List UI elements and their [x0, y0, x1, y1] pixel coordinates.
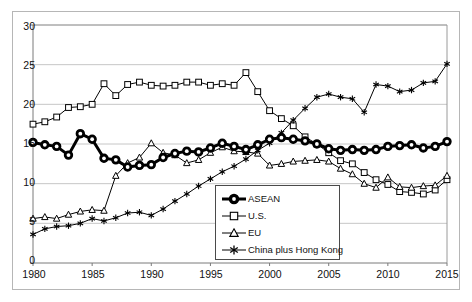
x-tick-label: 2000: [250, 268, 290, 280]
legend-label: EU: [248, 227, 261, 238]
x-tick-label: 2005: [309, 268, 349, 280]
y-tick-label: 5: [13, 215, 35, 227]
x-tick-label: 2015: [427, 268, 467, 280]
legend-marker-china-icon: [221, 243, 247, 257]
x-tick-label: 1995: [191, 268, 231, 280]
y-tick-label: 10: [13, 176, 35, 188]
chart-figure: 30 25 20 15 10 5 0 1980 1985 1990 1995 2…: [0, 0, 472, 302]
y-tick-label: 30: [13, 20, 35, 32]
x-tick-label: 1980: [14, 268, 54, 280]
legend-item-asean: ASEAN: [221, 190, 335, 207]
legend-marker-us-icon: [221, 209, 247, 223]
legend-marker-asean-icon: [221, 192, 247, 206]
legend-item-china-hongkong: China plus Hong Kong: [221, 241, 335, 258]
x-tick-label: 1990: [132, 268, 172, 280]
legend-label: U.S.: [248, 210, 266, 221]
legend-label: China plus Hong Kong: [248, 244, 343, 255]
legend-item-eu: EU: [221, 224, 335, 241]
y-tick-label: 0: [13, 254, 35, 266]
y-tick-label: 25: [13, 59, 35, 71]
legend-marker-eu-icon: [221, 226, 247, 240]
legend-item-us: U.S.: [221, 207, 335, 224]
y-tick-label: 15: [13, 137, 35, 149]
legend-label: ASEAN: [248, 193, 280, 204]
chart-legend: ASEAN U.S. EU: [215, 185, 340, 260]
x-tick-label: 1985: [73, 268, 113, 280]
y-tick-label: 20: [13, 98, 35, 110]
x-tick-label: 2010: [368, 268, 408, 280]
